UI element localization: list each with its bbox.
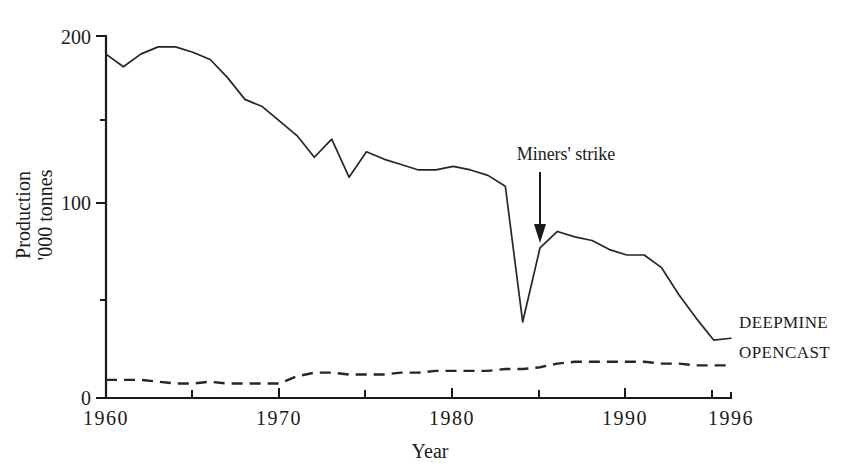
y-axis-title-line1: Production — [12, 171, 34, 259]
y-tick-label-200: 200 — [61, 26, 91, 48]
x-tick-label-1980: 1980 — [429, 407, 475, 429]
annotation-label-miners-strike: Miners' strike — [517, 144, 616, 164]
x-tick-label-1970: 1970 — [256, 407, 302, 429]
series-line-deepmine — [106, 47, 731, 340]
coal-production-chart: 0 100 200 1960 1970 1980 1990 1996 Year … — [0, 0, 860, 470]
y-axis-ticks — [96, 36, 106, 398]
chart-canvas: 0 100 200 1960 1970 1980 1990 1996 Year … — [0, 0, 860, 470]
annotation-miners-strike: Miners' strike — [517, 144, 616, 243]
x-axis-ticks — [106, 388, 712, 398]
y-tick-label-100: 100 — [61, 192, 91, 214]
y-tick-label-0: 0 — [81, 387, 91, 409]
series-label-deepmine: DEEPMINE — [739, 313, 828, 332]
y-axis-title-line2: '000 tonnes — [34, 169, 56, 260]
series-line-opencast — [106, 362, 731, 384]
annotation-arrow-head-icon — [534, 224, 546, 243]
x-tick-label-1996: 1996 — [708, 407, 754, 429]
x-tick-label-1960: 1960 — [83, 407, 129, 429]
y-axis-title: Production '000 tonnes — [12, 169, 56, 260]
series-label-opencast: OPENCAST — [739, 343, 830, 362]
x-axis-title: Year — [412, 440, 449, 462]
x-tick-label-1990: 1990 — [602, 407, 648, 429]
